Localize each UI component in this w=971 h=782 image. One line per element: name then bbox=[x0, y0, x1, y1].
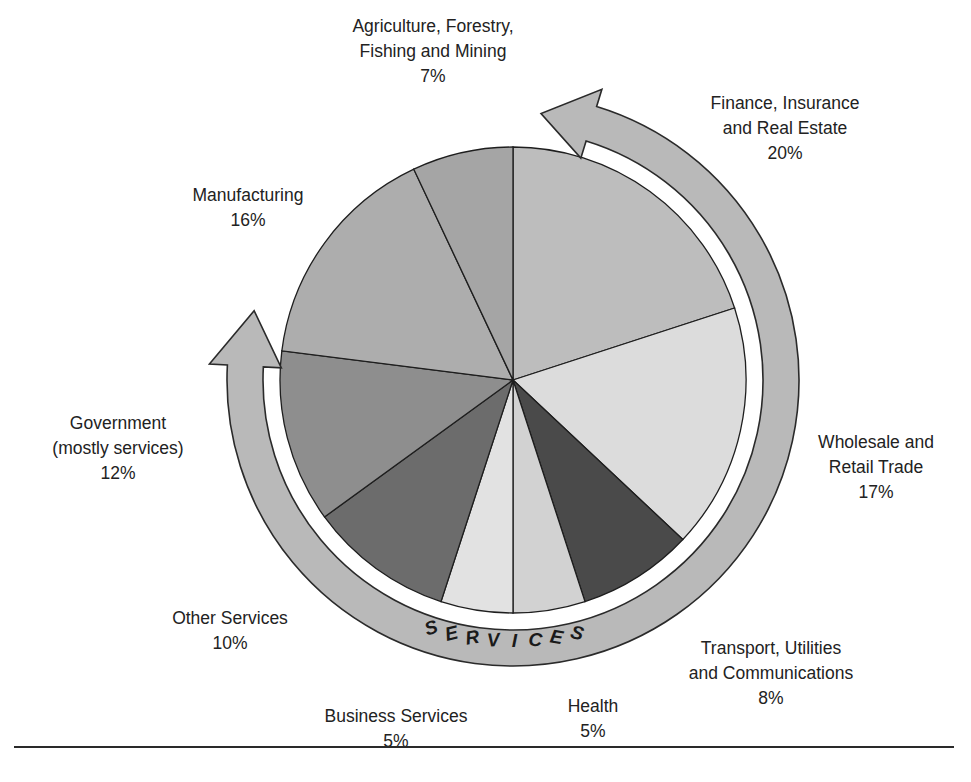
bottom-rule bbox=[14, 746, 954, 748]
label-manufacturing: Manufacturing 16% bbox=[193, 183, 304, 233]
label-other-services: Other Services 10% bbox=[172, 606, 288, 656]
label-agriculture: Agriculture, Forestry, Fishing and Minin… bbox=[352, 14, 513, 89]
services-letter: I bbox=[512, 630, 518, 651]
label-finance: Finance, Insurance and Real Estate 20% bbox=[711, 91, 860, 166]
pie-slices bbox=[280, 147, 746, 613]
label-transport: Transport, Utilities and Communications … bbox=[689, 636, 853, 711]
label-health: Health 5% bbox=[568, 694, 619, 744]
label-government: Government (mostly services) 12% bbox=[52, 411, 183, 486]
services-letter: C bbox=[528, 629, 544, 651]
label-wholesale: Wholesale and Retail Trade 17% bbox=[818, 430, 934, 505]
